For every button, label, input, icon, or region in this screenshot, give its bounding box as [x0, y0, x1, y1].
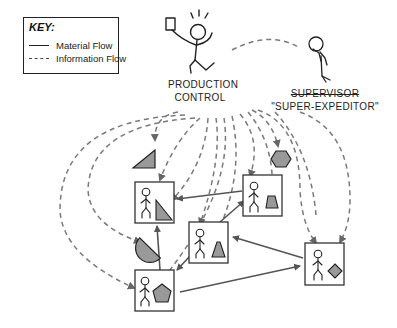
- info-flow-to-cone-part: [216, 116, 236, 236]
- material-flow-diamond-to-cone: [233, 237, 303, 258]
- material-flow-pentagon-to-diamond: [180, 266, 300, 292]
- info-flow-pc-to-supervisor: [232, 39, 300, 50]
- loose-half-disc-part: [133, 235, 160, 266]
- info-flow-supervisor-to-diamond: [300, 112, 350, 242]
- solid-line-icon: [29, 45, 49, 46]
- workstation-trapezoid: [243, 175, 282, 216]
- supervisor-nickname-label: "SUPER-EXPEDITOR": [270, 101, 380, 112]
- info-flow-to-trapezoid-station: [240, 114, 254, 176]
- loose-triangle-part: [133, 150, 155, 168]
- loose-hexagon-part: [271, 151, 291, 167]
- legend-key: KEY: Material Flow Information Flow: [23, 17, 119, 74]
- paper-icon: [166, 18, 175, 30]
- legend-item-information-flow: Information Flow: [29, 53, 126, 64]
- info-flow-to-triangle-part: [172, 118, 208, 200]
- legend-label: Material Flow: [56, 40, 113, 51]
- workstation-cone: [189, 222, 228, 263]
- material-flow-cone-to-trapezoid: [220, 201, 244, 222]
- supervisor-figure: [309, 37, 330, 82]
- material-flow-cone-to-pentagon: [177, 256, 190, 270]
- dashed-line-icon: [29, 58, 49, 59]
- legend-title: KEY:: [29, 21, 55, 33]
- material-flow-pentagon-to-triangle: [157, 226, 160, 270]
- legend-label: Information Flow: [56, 53, 126, 64]
- production-control-label-line2: CONTROL: [168, 92, 232, 103]
- workstation-diamond: [305, 243, 344, 285]
- supervisor-label-struck: SUPERVISOR: [280, 88, 370, 99]
- workstation-pentagon: [135, 270, 174, 311]
- legend-item-material-flow: Material Flow: [29, 40, 113, 51]
- production-control-label-line1: PRODUCTION: [168, 79, 232, 90]
- production-control-figure: [166, 10, 214, 73]
- workstation-triangle: [135, 182, 174, 223]
- info-flow-to-hexagon: [252, 110, 278, 146]
